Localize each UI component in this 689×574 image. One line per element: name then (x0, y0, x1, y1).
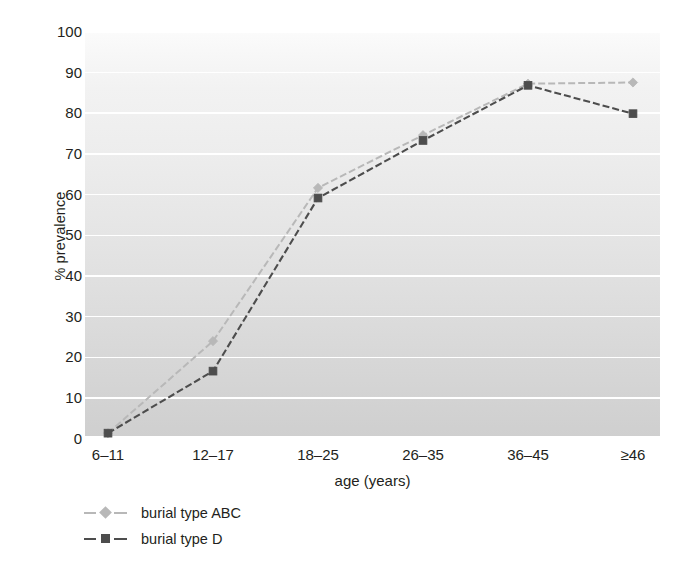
x-tick-label: 36–45 (507, 446, 549, 464)
legend-label: burial type ABC (141, 505, 241, 521)
data-point-marker (629, 110, 637, 118)
x-tick-label: ≥46 (621, 446, 646, 464)
series-plot (85, 31, 660, 438)
y-tick-label: 80 (40, 105, 82, 120)
y-tick-label: 50 (40, 227, 82, 242)
x-axis-title: age (years) (85, 472, 660, 489)
plot-area (85, 31, 660, 438)
y-tick-label: 90 (40, 65, 82, 80)
legend-label: burial type D (141, 531, 222, 547)
y-tick-label: 20 (40, 349, 82, 364)
y-tick-label: 0 (40, 431, 82, 446)
y-tick-label: 40 (40, 268, 82, 283)
x-tick-label: 26–35 (402, 446, 444, 464)
chart-figure: % prevalence 100 90 80 70 60 50 40 30 20… (0, 0, 689, 574)
legend-key-diamond-icon (83, 505, 129, 521)
data-point-marker (524, 81, 532, 89)
data-point-marker (628, 78, 637, 87)
data-point-marker (314, 194, 322, 202)
legend-item-burial-type-abc: burial type ABC (83, 500, 423, 526)
x-tick-label: 18–25 (297, 446, 339, 464)
x-axis-tick-labels: 6–11 12–17 18–25 26–35 36–45 ≥46 (85, 446, 660, 468)
y-axis-tick-labels: 100 90 80 70 60 50 40 30 20 10 0 (40, 0, 82, 574)
data-point-marker (419, 137, 427, 145)
y-tick-label: 100 (40, 24, 82, 39)
x-tick-label: 12–17 (192, 446, 234, 464)
y-tick-label: 10 (40, 390, 82, 405)
series-line (108, 82, 633, 433)
data-point-marker (104, 429, 112, 437)
series-line (108, 85, 633, 433)
y-tick-label: 60 (40, 187, 82, 202)
legend-item-burial-type-d: burial type D (83, 526, 423, 552)
chart-legend: burial type ABC burial type D (83, 500, 423, 552)
y-tick-label: 30 (40, 309, 82, 324)
legend-key-square-icon (83, 531, 129, 547)
data-point-marker (209, 367, 217, 375)
y-tick-label: 70 (40, 146, 82, 161)
x-tick-label: 6–11 (92, 446, 124, 464)
